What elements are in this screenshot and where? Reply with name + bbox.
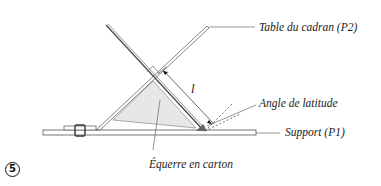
figure-number-badge: 5 — [5, 162, 20, 177]
label-latitude-angle: Angle de latitude — [259, 98, 338, 110]
label-support-p1: Support (P1) — [285, 127, 345, 139]
label-cardboard-square: Équerre en carton — [149, 159, 233, 171]
cardboard-square-triangle — [113, 81, 196, 128]
label-length-l: l — [191, 82, 195, 95]
label-table-p2: Table du cadran (P2) — [259, 22, 357, 34]
